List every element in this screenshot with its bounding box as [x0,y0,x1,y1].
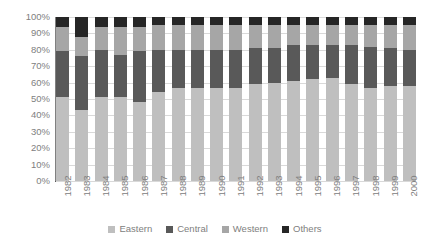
bar-segment-others[interactable] [133,17,146,27]
bar-segment-central[interactable] [152,50,165,93]
bar-segment-central[interactable] [95,50,108,98]
bar-segment-western[interactable] [172,25,185,50]
bar-column[interactable] [229,17,242,181]
bar-segment-others[interactable] [306,17,319,25]
bar-segment-central[interactable] [114,55,127,98]
bar-segment-eastern[interactable] [249,84,262,181]
bar-segment-eastern[interactable] [56,97,69,181]
bar-segment-central[interactable] [287,45,300,81]
bar-column[interactable] [210,17,223,181]
bar-segment-western[interactable] [133,27,146,52]
bar-segment-western[interactable] [326,25,339,45]
bar-segment-western[interactable] [364,25,377,46]
bar-segment-eastern[interactable] [268,83,281,181]
bar-segment-eastern[interactable] [75,110,88,181]
bar-column[interactable] [114,17,127,181]
bar-column[interactable] [364,17,377,181]
bar-column[interactable] [95,17,108,181]
bar-column[interactable] [306,17,319,181]
bar-segment-western[interactable] [384,25,397,48]
bar-segment-western[interactable] [268,25,281,48]
bar-segment-others[interactable] [364,17,377,25]
bar-segment-eastern[interactable] [114,97,127,181]
bar-segment-western[interactable] [287,25,300,45]
bar-segment-central[interactable] [210,50,223,88]
bar-segment-eastern[interactable] [210,88,223,181]
bar-segment-eastern[interactable] [152,92,165,181]
bar-segment-others[interactable] [95,17,108,27]
bar-column[interactable] [56,17,69,181]
bar-segment-others[interactable] [403,17,416,25]
bar-segment-others[interactable] [249,17,262,25]
bar-segment-western[interactable] [75,37,88,57]
bar-segment-others[interactable] [56,17,69,27]
legend-item-others[interactable]: Others [282,224,322,234]
bar-segment-eastern[interactable] [345,84,358,181]
bar-segment-central[interactable] [133,51,146,102]
bar-column[interactable] [133,17,146,181]
bar-segment-central[interactable] [229,50,242,88]
bar-column[interactable] [75,17,88,181]
bar-column[interactable] [152,17,165,181]
bar-column[interactable] [403,17,416,181]
bar-segment-western[interactable] [95,27,108,50]
bar-segment-others[interactable] [268,17,281,25]
bar-segment-others[interactable] [172,17,185,25]
bar-column[interactable] [172,17,185,181]
bar-segment-eastern[interactable] [403,86,416,181]
bar-segment-central[interactable] [191,50,204,88]
bar-segment-others[interactable] [287,17,300,25]
bar-segment-eastern[interactable] [384,86,397,181]
bar-segment-central[interactable] [384,48,397,86]
bar-column[interactable] [384,17,397,181]
bar-segment-others[interactable] [75,17,88,37]
bar-segment-eastern[interactable] [229,88,242,181]
bar-segment-western[interactable] [403,25,416,50]
bar-segment-eastern[interactable] [287,81,300,181]
legend-item-western[interactable]: Western [222,224,268,234]
bar-segment-central[interactable] [249,48,262,84]
bar-segment-central[interactable] [326,45,339,78]
bar-segment-western[interactable] [306,25,319,45]
x-axis-tick: 1986 [133,184,146,220]
bar-segment-central[interactable] [75,56,88,110]
bar-segment-central[interactable] [56,51,69,97]
bar-segment-western[interactable] [152,25,165,50]
bar-segment-eastern[interactable] [326,78,339,181]
bar-segment-eastern[interactable] [191,88,204,181]
bar-segment-eastern[interactable] [133,102,146,181]
bar-segment-others[interactable] [229,17,242,25]
bar-segment-western[interactable] [249,25,262,48]
bar-segment-eastern[interactable] [95,97,108,181]
bar-segment-western[interactable] [229,25,242,50]
bar-segment-eastern[interactable] [306,79,319,181]
bar-segment-others[interactable] [210,17,223,25]
bar-segment-others[interactable] [384,17,397,25]
bar-segment-others[interactable] [191,17,204,25]
bar-segment-central[interactable] [345,45,358,84]
bar-segment-others[interactable] [114,17,127,27]
bar-column[interactable] [191,17,204,181]
bar-segment-eastern[interactable] [364,88,377,181]
bar-column[interactable] [249,17,262,181]
bar-segment-western[interactable] [56,27,69,52]
bar-segment-western[interactable] [114,27,127,55]
bar-segment-others[interactable] [152,17,165,25]
bar-column[interactable] [268,17,281,181]
bar-segment-western[interactable] [191,25,204,50]
bar-segment-central[interactable] [364,47,377,88]
legend-item-central[interactable]: Central [166,224,208,234]
bar-segment-central[interactable] [172,50,185,88]
bar-segment-others[interactable] [345,17,358,25]
bar-column[interactable] [326,17,339,181]
legend-item-eastern[interactable]: Eastern [108,224,152,234]
bar-column[interactable] [287,17,300,181]
bar-segment-western[interactable] [345,25,358,45]
bar-segment-central[interactable] [403,50,416,86]
bar-segment-eastern[interactable] [172,88,185,181]
bar-segment-central[interactable] [306,45,319,79]
bar-segment-central[interactable] [268,48,281,82]
bar-segment-western[interactable] [210,25,223,50]
bar-segment-others[interactable] [326,17,339,25]
bar-column[interactable] [345,17,358,181]
